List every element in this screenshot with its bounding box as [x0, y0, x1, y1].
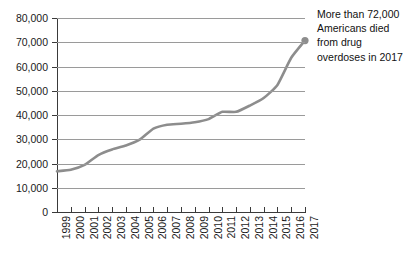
x-axis-tick-label: 2010: [213, 216, 223, 239]
y-axis-tick-label: 0: [0, 207, 48, 217]
x-axis-tick: [98, 207, 99, 212]
x-axis-tick-label: 2007: [171, 216, 181, 239]
x-axis-tick-label: 2012: [240, 216, 250, 239]
x-axis-tick: [277, 207, 278, 212]
x-axis-tick-label: 2002: [102, 216, 112, 239]
x-axis-tick-label: 2016: [295, 216, 305, 239]
x-axis-tick-label: 2004: [130, 216, 140, 239]
x-axis-tick: [153, 207, 154, 212]
x-axis-tick: [250, 207, 251, 212]
y-axis-tick-label: 10,000: [0, 183, 48, 193]
x-axis-tick: [167, 207, 168, 212]
y-axis-tick-label: 70,000: [0, 37, 48, 47]
x-axis-tick-label: 2015: [281, 216, 291, 239]
x-axis-tick-label: 2001: [89, 216, 99, 239]
chart-container: 80,00070,00060,00050,00040,00030,00020,0…: [0, 0, 411, 266]
y-axis-tick-label: 80,000: [0, 13, 48, 23]
gridline: [57, 115, 305, 116]
x-axis-tick: [181, 207, 182, 212]
x-axis-tick: [305, 207, 306, 212]
x-axis-tick-label: 2006: [157, 216, 167, 239]
y-axis-tick-label: 50,000: [0, 86, 48, 96]
x-axis-tick: [112, 207, 113, 212]
x-axis-tick: [291, 207, 292, 212]
x-axis-tick: [71, 207, 72, 212]
x-axis-tick-label: 2017: [309, 216, 319, 239]
x-axis-tick: [57, 207, 58, 212]
gridline: [57, 188, 305, 189]
x-axis-tick-label: 1999: [61, 216, 71, 239]
gridline: [57, 139, 305, 140]
x-axis-tick-label: 2005: [144, 216, 154, 239]
x-axis-tick: [140, 207, 141, 212]
x-axis-tick: [264, 207, 265, 212]
x-axis-tick-label: 2000: [75, 216, 85, 239]
y-axis-tick-label: 40,000: [0, 110, 48, 120]
x-axis-tick-label: 2009: [199, 216, 209, 239]
x-axis-tick-label: 2008: [185, 216, 195, 239]
gridline: [57, 18, 305, 19]
gridline: [57, 91, 305, 92]
x-axis-tick-label: 2011: [226, 216, 236, 239]
y-axis-tick-label: 20,000: [0, 159, 48, 169]
x-axis-tick-label: 2014: [268, 216, 278, 239]
x-axis-tick: [209, 207, 210, 212]
gridline: [57, 67, 305, 68]
x-axis-tick: [85, 207, 86, 212]
gridline: [57, 212, 305, 213]
overdose-callout-text: More than 72,000 Americans died from dru…: [317, 7, 409, 64]
y-axis-tick-label: 60,000: [0, 62, 48, 72]
y-axis-tick-label: 30,000: [0, 134, 48, 144]
series-line: [57, 41, 305, 172]
x-axis-tick-label: 2013: [254, 216, 264, 239]
x-axis-tick: [126, 207, 127, 212]
x-axis-tick: [222, 207, 223, 212]
x-axis-tick: [195, 207, 196, 212]
gridline: [57, 42, 305, 43]
x-axis-tick: [236, 207, 237, 212]
x-axis-tick-label: 2003: [116, 216, 126, 239]
endpoint-marker-dot: [301, 37, 308, 44]
gridline: [57, 164, 305, 165]
